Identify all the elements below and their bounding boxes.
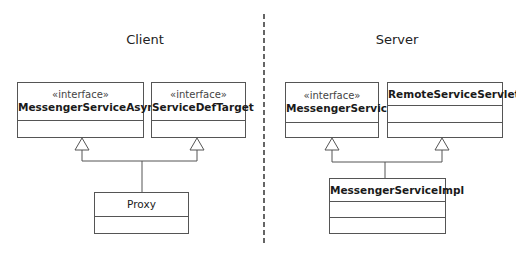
realization-triangle-icon	[190, 138, 204, 150]
class-messenger-service[interactable]: «interface» MessengerService	[285, 82, 379, 138]
class-messenger-service-impl[interactable]: MessengerServiceImpl	[329, 178, 446, 234]
class-messenger-service-async[interactable]: «interface» MessengerServiceAsync	[17, 82, 144, 138]
stereotype-label: «interface»	[152, 89, 245, 101]
class-name: Proxy	[95, 198, 188, 211]
class-name-compartment: «interface» ServiceDefTarget	[152, 83, 245, 121]
class-name-compartment: «interface» MessengerService	[286, 83, 378, 123]
attributes-compartment	[152, 121, 245, 137]
stereotype-label: «interface»	[18, 89, 143, 101]
generalization-triangle-icon	[435, 138, 449, 150]
operations-compartment	[388, 123, 502, 137]
class-name-compartment: Proxy	[95, 193, 188, 217]
class-proxy[interactable]: Proxy	[94, 192, 189, 234]
class-name: RemoteServiceServlet	[388, 88, 502, 101]
class-remote-service-servlet[interactable]: RemoteServiceServlet	[387, 82, 503, 138]
class-name-compartment: «interface» MessengerServiceAsync	[18, 83, 143, 121]
attributes-compartment	[388, 106, 502, 123]
class-service-def-target[interactable]: «interface» ServiceDefTarget	[151, 82, 246, 138]
class-name: ServiceDefTarget	[152, 101, 245, 114]
class-name-compartment: RemoteServiceServlet	[388, 83, 502, 106]
class-name: MessengerServiceImpl	[330, 184, 445, 197]
operations-compartment	[330, 218, 445, 233]
attributes-compartment	[95, 217, 188, 233]
class-name: MessengerService	[286, 102, 378, 115]
attributes-compartment	[18, 121, 143, 137]
attributes-compartment	[286, 123, 378, 137]
class-name: MessengerServiceAsync	[18, 101, 143, 114]
realization-triangle-icon	[325, 138, 339, 150]
realization-triangle-icon	[75, 138, 89, 150]
class-name-compartment: MessengerServiceImpl	[330, 179, 445, 202]
attributes-compartment	[330, 202, 445, 218]
stereotype-label: «interface»	[286, 90, 378, 102]
